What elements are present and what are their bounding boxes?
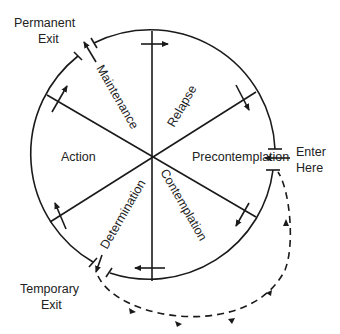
permanent-exit-label-line1: Permanent bbox=[14, 16, 76, 30]
temporary-exit-label-line2: Exit bbox=[41, 298, 62, 312]
stage-label-action: Action bbox=[61, 150, 96, 164]
stage-label-maintenance: Maintenance bbox=[93, 63, 141, 132]
permanent-exit-arrow-icon bbox=[84, 42, 96, 62]
temporary-exit-label-line1: Temporary bbox=[20, 282, 80, 296]
stage-label-contemplation: Contemplation bbox=[157, 167, 209, 244]
stage-label-relapse: Relapse bbox=[164, 83, 199, 130]
arrow-up-icon bbox=[55, 203, 66, 229]
stages-of-change-diagram: Precontemplation Contemplation Determina… bbox=[0, 0, 340, 334]
enter-here-label-line1: Enter bbox=[296, 145, 326, 159]
permanent-exit-label-line2: Exit bbox=[38, 32, 59, 46]
stage-label-precontemplation: Precontemplation bbox=[192, 150, 289, 164]
enter-here-label-line2: Here bbox=[296, 161, 323, 175]
temporary-exit-arrow-icon bbox=[96, 255, 102, 272]
stage-label-determination: Determination bbox=[97, 177, 148, 251]
